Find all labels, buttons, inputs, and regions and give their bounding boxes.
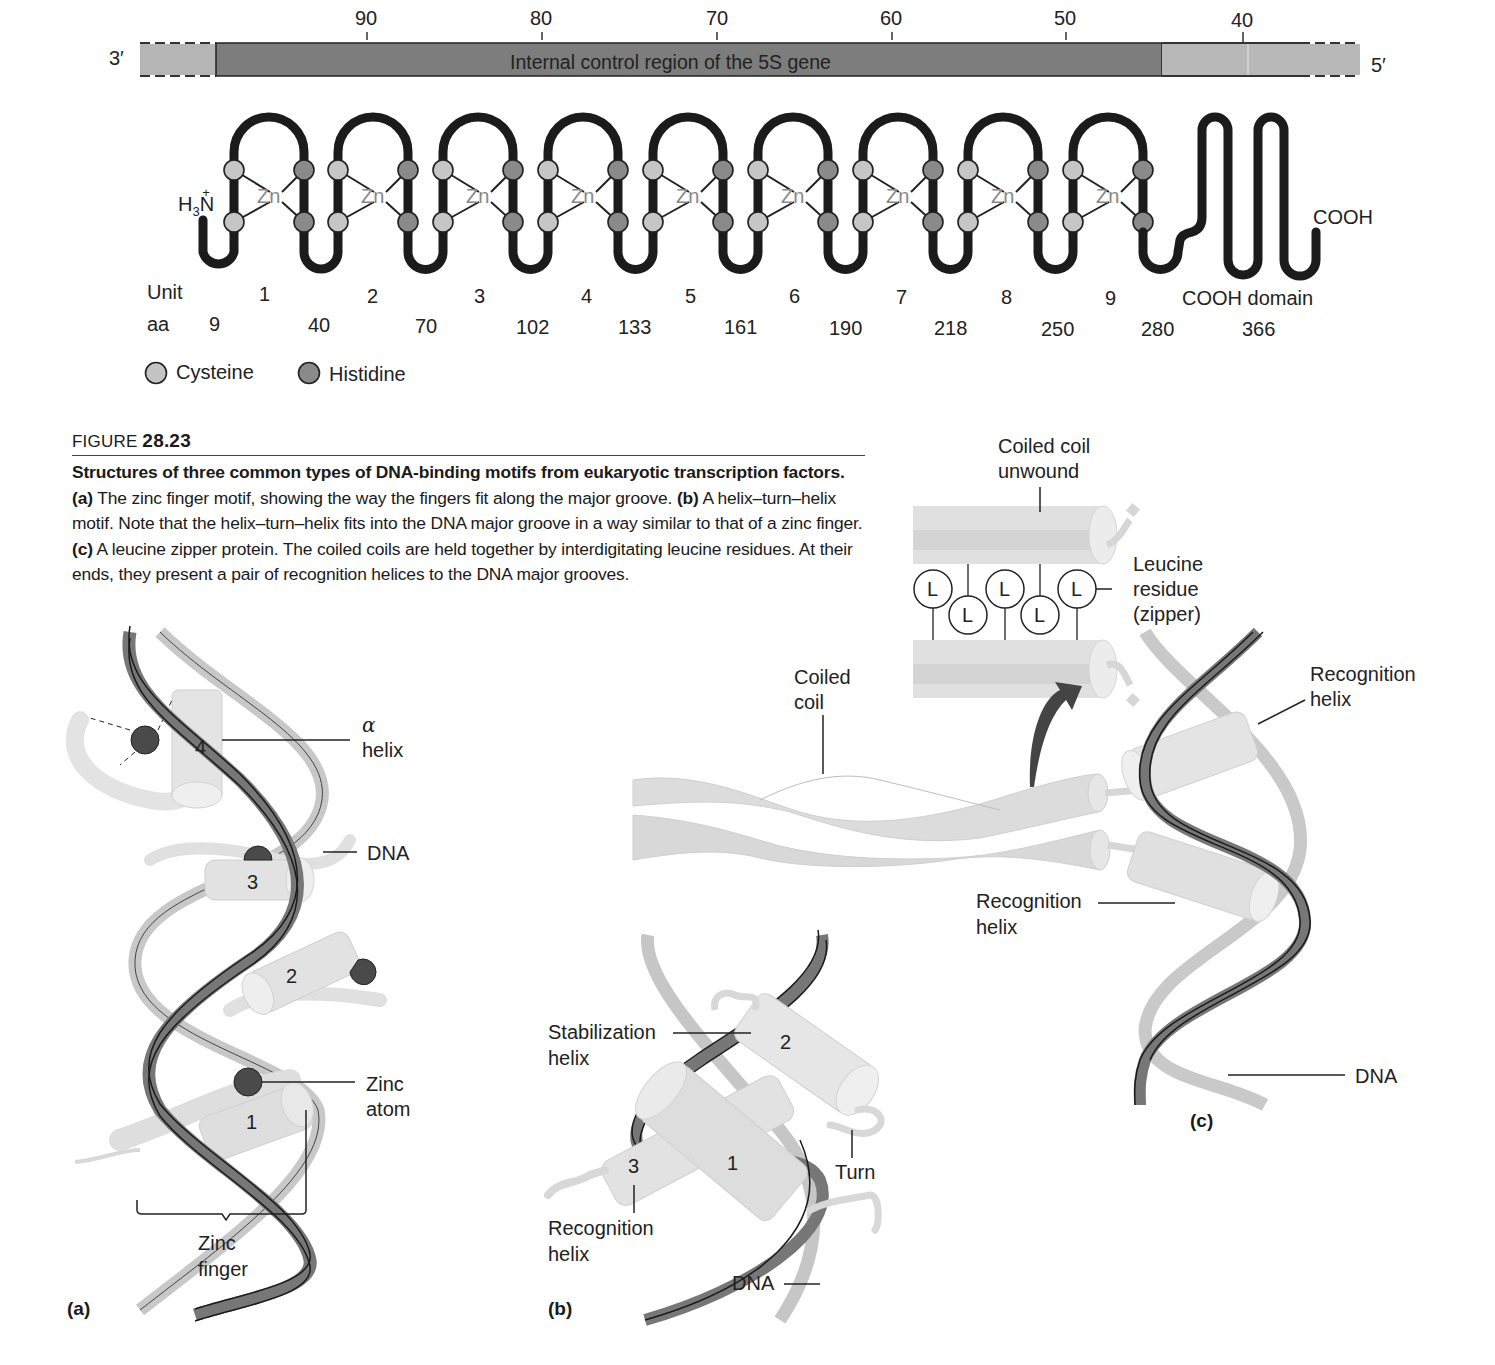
leucine-residue-label-line3: (zipper) — [1133, 602, 1201, 627]
dna-label: DNA — [1355, 1064, 1397, 1089]
leucine-letter: L — [1034, 603, 1045, 628]
recognition-helix-bottom-label-line1: Recognition — [976, 889, 1082, 914]
leucine-residue-label-line1: Leucine — [1133, 552, 1203, 577]
leucine-letter: L — [1071, 577, 1082, 602]
leucine-residue-label-line2: residue — [1133, 577, 1199, 602]
panel-c-graphic — [0, 0, 1495, 1365]
leucine-letter: L — [962, 603, 973, 628]
leucine-letter: L — [999, 577, 1010, 602]
coiled-coil-label-line1: Coiled — [794, 665, 851, 690]
recognition-helix-top-icon — [1116, 709, 1261, 804]
unwound-helix-top-icon — [913, 503, 1140, 564]
coiled-coil-unwound-label-line2: unwound — [998, 459, 1079, 484]
recognition-helix-top-label-line2: helix — [1310, 687, 1351, 712]
recognition-helix-top-label-line1: Recognition — [1310, 662, 1416, 687]
coiled-coil-unwound-label-line1: Coiled coil — [998, 434, 1090, 459]
panel-c-tag: (c) — [1190, 1110, 1213, 1132]
coiled-coil-label-line2: coil — [794, 690, 824, 715]
leucine-letter: L — [927, 577, 938, 602]
recognition-helix-bottom-label-line2: helix — [976, 915, 1017, 940]
unwound-helix-bottom-icon — [913, 640, 1140, 707]
